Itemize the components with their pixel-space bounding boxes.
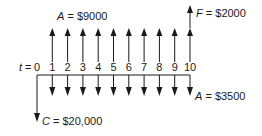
cost-arrow [80, 75, 86, 96]
cost-arrow [65, 75, 71, 96]
cost-arrow [95, 75, 101, 96]
period-label: 1 [49, 61, 55, 73]
cost-arrow [126, 75, 132, 96]
cost-arrow [172, 75, 178, 96]
period-label: 0 [34, 61, 40, 73]
receipt-arrow [80, 28, 86, 62]
initial-cost-arrow [34, 75, 40, 122]
receipt-arrow [172, 28, 178, 62]
receipt-arrow [49, 28, 55, 62]
costs-label: A = $3500 [194, 90, 245, 102]
cost-arrow [187, 75, 193, 96]
period-label: 5 [110, 61, 116, 73]
receipt-arrow [126, 28, 132, 62]
receipts-label: A = $9000 [56, 10, 107, 22]
initial-cost-label: C = $20,000 [42, 115, 102, 127]
receipt-arrow [156, 28, 162, 62]
receipt-arrow [111, 28, 117, 62]
cost-arrows [49, 75, 193, 96]
receipt-arrow [187, 28, 193, 62]
cost-arrow [111, 75, 117, 96]
period-label: 3 [80, 61, 86, 73]
receipt-arrow [95, 28, 101, 62]
cost-arrow [156, 75, 162, 96]
period-label: 2 [65, 61, 71, 73]
period-label: 10 [184, 61, 196, 73]
period-label: 6 [126, 61, 132, 73]
future-value-arrow [187, 5, 193, 28]
period-label: 8 [156, 61, 162, 73]
cost-arrow [141, 75, 147, 96]
receipt-arrow [65, 28, 71, 62]
receipt-arrow [141, 28, 147, 62]
period-labels: 012345678910 [34, 61, 196, 73]
receipt-arrows [49, 28, 193, 62]
period-label: 7 [141, 61, 147, 73]
future-value-label: F = $2000 [196, 7, 246, 19]
cost-arrow [49, 75, 55, 96]
period-label: 9 [172, 61, 178, 73]
time-axis-label: t = [19, 61, 32, 73]
period-label: 4 [95, 61, 101, 73]
cash-flow-diagram: A = $9000 F = $2000 t = 012345678910 A =… [0, 0, 262, 136]
